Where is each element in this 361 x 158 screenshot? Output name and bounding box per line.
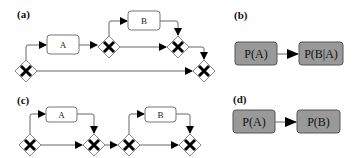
edge-split1-to-a [30, 114, 45, 134]
edge-b-to-join2 [176, 114, 190, 133]
edge-split2-to-b [109, 21, 127, 36]
prob-node-pa-label: P(A) [242, 115, 265, 129]
prob-node-pa-label: P(A) [244, 47, 267, 61]
task-a: A [47, 35, 79, 54]
task-b: B [145, 107, 176, 122]
panel-d: (d) P(A) P(B) [233, 93, 340, 133]
prob-node-pba-label: P(B|A) [304, 47, 338, 61]
edge-join1-to-join2 [189, 47, 204, 59]
task-a-label: A [58, 110, 65, 120]
task-a: A [46, 107, 77, 122]
edge-b-to-join1 [160, 21, 178, 35]
task-a-label: A [60, 40, 67, 50]
panel-a-label: (a) [17, 8, 30, 21]
prob-node-pa: P(A) [233, 110, 275, 133]
panel-c: (c) A B [17, 94, 201, 156]
xor-gateway-icon [179, 134, 201, 156]
edge-split1-to-a [26, 45, 46, 60]
task-b: B [128, 11, 160, 30]
xor-gateway-icon [118, 134, 140, 156]
panel-a: (a) A B [15, 8, 215, 82]
diagram-canvas: (a) A B [0, 0, 361, 158]
edge-a-to-join1 [77, 114, 94, 133]
xor-gateway-icon [83, 134, 105, 156]
xor-gateway-icon [98, 36, 120, 58]
prob-node-pb-label: P(B) [307, 115, 330, 129]
panel-b-label: (b) [234, 9, 248, 22]
xor-gateway-icon [193, 60, 215, 82]
xor-gateway-icon [167, 36, 189, 58]
prob-node-pba: P(B|A) [299, 42, 343, 65]
panel-d-label: (d) [233, 93, 247, 106]
xor-gateway-icon [19, 134, 41, 156]
panel-c-label: (c) [17, 94, 30, 107]
prob-node-pa: P(A) [235, 42, 277, 65]
panel-b: (b) P(A) P(B|A) [234, 9, 343, 65]
xor-gateway-icon [15, 60, 37, 82]
task-b-label: B [141, 16, 147, 26]
edge-split2-to-b [129, 114, 144, 134]
task-b-label: B [157, 110, 163, 120]
prob-node-pb: P(B) [297, 110, 340, 133]
